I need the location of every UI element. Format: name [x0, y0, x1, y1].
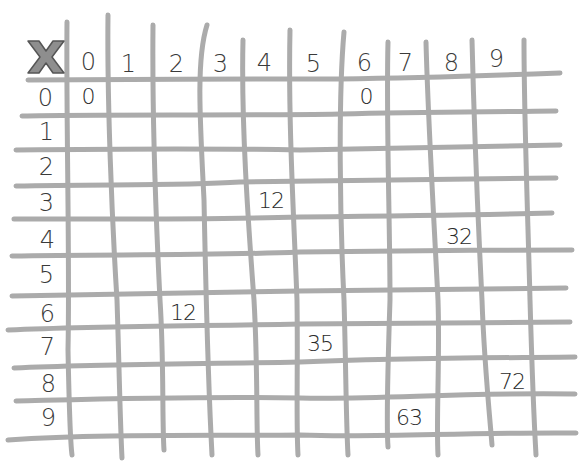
cell-r0-c6: 0: [360, 86, 373, 108]
row-header-2: 2: [39, 155, 53, 179]
row-header-3: 3: [39, 191, 53, 215]
grid-hline-2: [16, 145, 560, 150]
column-header-4: 4: [257, 51, 271, 75]
grid-vline-4: [243, 40, 258, 455]
row-header-6: 6: [40, 302, 54, 326]
cell-r9-c7: 63: [396, 407, 422, 429]
grid-hline-8: [14, 357, 575, 368]
row-header-4: 4: [40, 228, 54, 252]
column-header-3: 3: [213, 52, 227, 76]
grid-hline-5: [12, 250, 572, 256]
cell-r0-c0: 0: [82, 86, 95, 108]
column-header-6: 6: [357, 51, 371, 75]
grid-vline-2: [153, 25, 164, 450]
grid-vline-3: [200, 25, 212, 455]
cell-r6-c2: 12: [170, 302, 196, 324]
cell-r4-c8: 32: [446, 226, 472, 248]
cell-r8-c9: 72: [499, 371, 525, 393]
row-header-7: 7: [40, 335, 54, 359]
column-header-7: 7: [398, 51, 412, 75]
row-header-0: 0: [38, 86, 52, 110]
cell-r3-c4: 12: [258, 190, 284, 212]
multiply-x-icon: [27, 40, 65, 74]
grid-hline-4: [14, 213, 552, 219]
grid-vline-6: [340, 32, 348, 455]
grid-vline-5: [290, 30, 298, 455]
grid-vline-9: [472, 40, 492, 445]
column-header-1: 1: [121, 52, 135, 76]
row-header-8: 8: [41, 372, 55, 396]
row-header-1: 1: [39, 120, 53, 144]
column-header-0: 0: [81, 50, 95, 74]
cell-r7-c5: 35: [307, 333, 333, 355]
column-header-2: 2: [169, 52, 183, 76]
row-header-9: 9: [41, 406, 55, 430]
column-header-5: 5: [306, 52, 320, 76]
grid-vline-0: [67, 22, 72, 455]
column-header-9: 9: [489, 47, 503, 71]
grid-vline-7: [387, 42, 390, 447]
row-header-5: 5: [39, 263, 53, 287]
column-header-8: 8: [444, 51, 458, 75]
